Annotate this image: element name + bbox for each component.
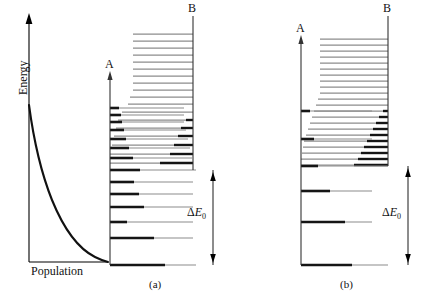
panel-b-b-levels (301, 39, 388, 165)
panel-a (107, 16, 215, 265)
panel-a-gap-e: E (195, 205, 202, 219)
panel-a-label-b: B (188, 1, 196, 16)
panel-b (298, 16, 410, 265)
panel-a-gap-arrow-down (210, 254, 216, 263)
boltzmann-population-curve (29, 105, 108, 262)
panel-b-label-a: A (296, 21, 305, 36)
energy-axis-label: Energy (16, 61, 31, 95)
panel-b-axis-a-arrowhead (298, 35, 303, 44)
panel-b-gap-arrow-down (405, 254, 411, 263)
panel-a-a-levels (110, 108, 196, 265)
panel-a-b-levels (110, 34, 193, 163)
population-panel (26, 13, 108, 262)
panel-a-caption: (a) (149, 278, 161, 290)
panel-b-gap-e: E (390, 205, 397, 219)
panel-b-gap-sub: 0 (397, 212, 401, 221)
panel-a-gap-arrow-up (210, 172, 216, 181)
panel-b-gap-label: ΔE0 (382, 205, 401, 221)
panel-b-gap-arrow-up (405, 168, 411, 177)
figure-root: Energy Population A B A B ΔE0 ΔE0 (a) (b… (0, 0, 425, 301)
panel-a-gap-label: ΔE0 (187, 205, 206, 221)
panel-a-gap-delta: Δ (187, 205, 195, 219)
panel-b-gap-delta: Δ (382, 205, 390, 219)
population-axis-label: Population (31, 264, 83, 279)
panel-a-gap-sub: 0 (202, 212, 206, 221)
panel-a-axis-a-arrowhead (107, 71, 112, 80)
panel-b-label-b: B (383, 1, 391, 16)
energy-axis-arrowhead (26, 13, 33, 24)
panel-a-label-a: A (105, 57, 114, 72)
panel-b-caption: (b) (340, 278, 353, 290)
energy-level-figure (0, 0, 425, 301)
